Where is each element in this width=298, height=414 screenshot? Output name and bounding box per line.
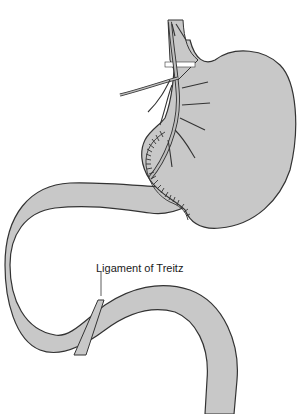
- clamp-bar: [165, 62, 195, 67]
- anatomy-illustration: [0, 0, 298, 414]
- ligament-of-treitz-label: Ligament of Treitz: [96, 262, 183, 274]
